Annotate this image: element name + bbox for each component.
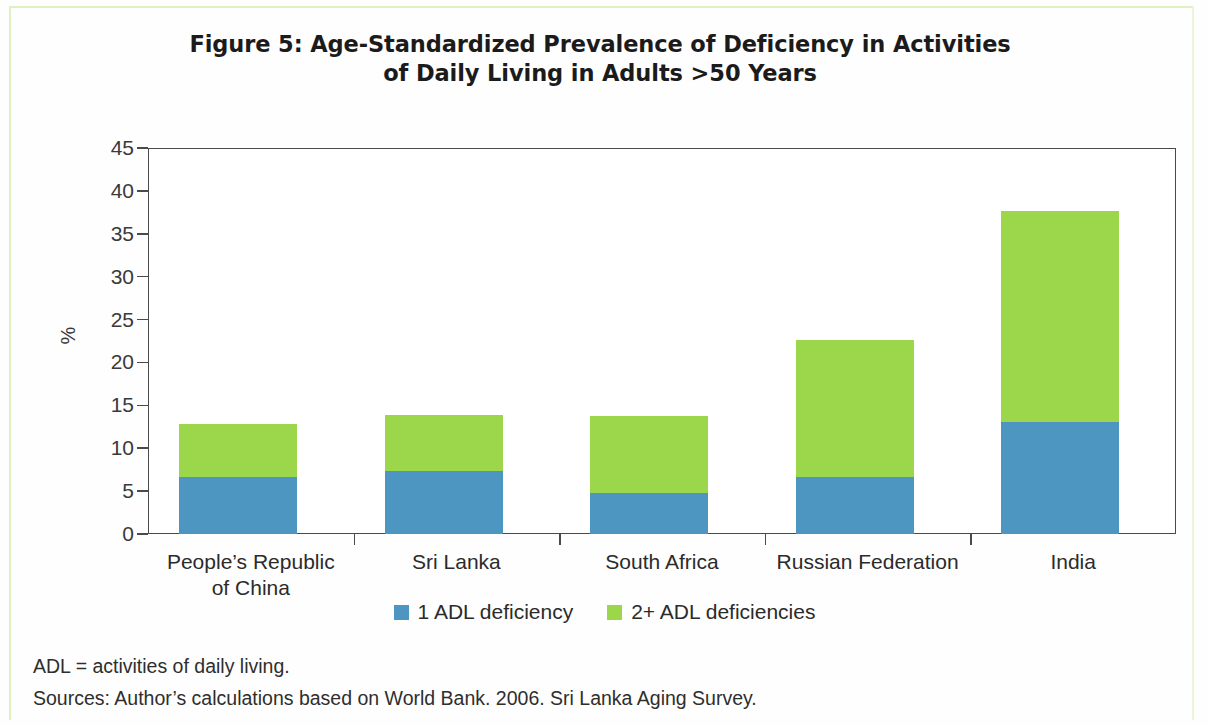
y-tick-label: 35	[90, 222, 134, 246]
legend-label: 2+ ADL deficiencies	[631, 600, 815, 624]
x-axis-label-line-1: South Africa	[605, 550, 718, 573]
y-tick-label: 25	[90, 308, 134, 332]
legend-swatch-icon	[394, 605, 409, 620]
bar-segment[interactable]	[590, 416, 708, 493]
bar-segment[interactable]	[796, 477, 914, 534]
y-tick-mark	[137, 190, 148, 192]
figure-notes: ADL = activities of daily living. Source…	[33, 650, 1173, 714]
bar-group[interactable]	[796, 148, 914, 534]
bar-group[interactable]	[179, 148, 297, 534]
bar-segment[interactable]	[179, 424, 297, 477]
legend-label: 1 ADL deficiency	[418, 600, 574, 624]
y-tick-label: 30	[90, 265, 134, 289]
x-axis-label-line-2: of China	[148, 575, 354, 601]
x-tick-mark	[559, 534, 561, 545]
x-axis-label-line-1: People’s Republic	[167, 550, 335, 573]
legend-item[interactable]: 2+ ADL deficiencies	[607, 600, 815, 624]
y-tick-mark	[137, 405, 148, 407]
y-tick-mark	[137, 233, 148, 235]
bar-group[interactable]	[385, 148, 503, 534]
bar-segment[interactable]	[796, 340, 914, 476]
bar-group[interactable]	[1001, 148, 1119, 534]
x-axis-label: Sri Lanka	[354, 549, 560, 575]
bar-segment[interactable]	[385, 415, 503, 472]
y-tick-label: 45	[90, 136, 134, 160]
bar-group[interactable]	[590, 148, 708, 534]
y-tick-label: 10	[90, 436, 134, 460]
y-tick-mark	[137, 276, 148, 278]
bar-segment[interactable]	[1001, 211, 1119, 422]
bar-segment[interactable]	[590, 493, 708, 534]
x-axis-tick-marks	[148, 534, 1176, 546]
bar-segment[interactable]	[179, 477, 297, 534]
figure-page: Figure 5: Age-Standardized Prevalence of…	[0, 0, 1209, 726]
x-tick-mark	[354, 534, 356, 545]
plot-area	[148, 148, 1176, 534]
y-tick-mark	[137, 447, 148, 449]
y-tick-label: 0	[90, 522, 134, 546]
y-tick-label: 15	[90, 393, 134, 417]
bar-chart: % 051015202530354045 People’s Republicof…	[0, 0, 1209, 726]
y-tick-mark	[137, 362, 148, 364]
y-tick-mark	[137, 490, 148, 492]
y-tick-mark	[137, 147, 148, 149]
y-tick-mark	[137, 533, 148, 535]
legend-swatch-icon	[607, 605, 622, 620]
y-tick-label: 40	[90, 179, 134, 203]
y-tick-label: 5	[90, 479, 134, 503]
x-axis-label: India	[970, 549, 1176, 575]
x-axis-label: South Africa	[559, 549, 765, 575]
sources-note: Sources: Author’s calculations based on …	[33, 682, 1173, 714]
abbreviation-note: ADL = activities of daily living.	[33, 650, 1173, 682]
x-axis-label: People’s Republicof China	[148, 549, 354, 601]
x-axis-label-line-1: India	[1050, 550, 1096, 573]
bar-segment[interactable]	[385, 471, 503, 534]
x-axis-label-line-1: Russian Federation	[777, 550, 959, 573]
x-axis-label: Russian Federation	[765, 549, 971, 575]
legend-item[interactable]: 1 ADL deficiency	[394, 600, 574, 624]
y-tick-label: 20	[90, 350, 134, 374]
chart-legend: 1 ADL deficiency2+ ADL deficiencies	[0, 600, 1209, 624]
x-tick-mark	[765, 534, 767, 545]
y-axis-tick-labels: 051015202530354045	[88, 148, 134, 534]
y-axis-title: %	[57, 314, 80, 358]
x-axis-label-line-1: Sri Lanka	[412, 550, 501, 573]
bar-segment[interactable]	[1001, 422, 1119, 534]
x-tick-mark	[970, 534, 972, 545]
y-tick-mark	[137, 319, 148, 321]
